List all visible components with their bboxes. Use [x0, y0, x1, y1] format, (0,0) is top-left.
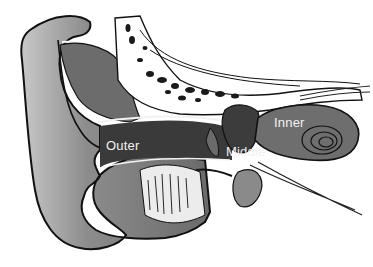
label-inner: Inner — [274, 115, 305, 130]
label-middle: Middle — [226, 144, 266, 159]
temporal-bone — [115, 16, 362, 115]
mastoid-region — [140, 165, 205, 223]
cochlea — [255, 105, 359, 161]
eustachian-tube — [233, 170, 262, 207]
ear-illustration — [0, 0, 373, 267]
ear-diagram: Outer Middle Inner — [0, 0, 373, 267]
label-outer: Outer — [106, 138, 140, 153]
